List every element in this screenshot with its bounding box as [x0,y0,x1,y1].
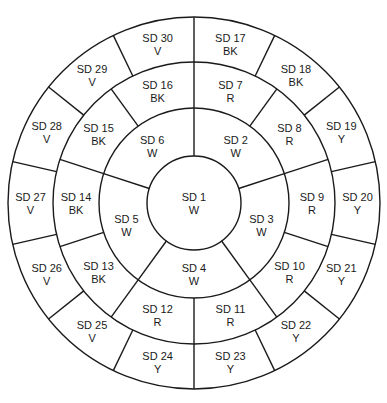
segment-code-label: BK [69,204,84,216]
segment-code-label: Y [354,204,362,216]
segment-id-label: SD 7 [218,79,242,91]
diagram-canvas: SD 1WSD 2WSD 3WSD 4WSD 5WSD 6WSD 7RSD 8R… [0,0,387,403]
segment-divider [222,241,250,280]
segment-dividers [13,17,376,389]
segment-divider [255,330,275,371]
segment-code-label: BK [91,135,106,147]
segment-code-label: W [147,147,158,159]
segment-sd-15: SD 15BK [83,122,114,147]
segment-code-label: W [231,147,242,159]
segment-id-label: SD 5 [114,213,138,225]
segment-code-label: R [226,92,234,104]
segment-id-label: SD 29 [77,63,108,75]
segment-divider [304,87,339,115]
segment-sd-19: SD 19Y [326,120,357,145]
segment-sd-28: SD 28V [31,120,62,145]
segment-code-label: R [308,204,316,216]
segment-id-label: SD 10 [274,260,305,272]
segment-code-label: W [256,226,267,238]
segment-sd-27: SD 27V [15,191,46,216]
segment-code-label: Y [154,363,162,375]
segment-id-label: SD 22 [281,319,312,331]
segment-sd-12: SD 12R [142,303,173,328]
segment-divider [331,234,375,244]
segment-code-label: R [226,316,234,328]
segment-id-label: SD 19 [326,120,357,132]
segment-sd-10: SD 10R [274,260,305,285]
segment-id-label: SD 11 [216,303,246,315]
segment-divider [60,159,104,173]
segment-sd-6: SD 6W [140,134,164,159]
segment-id-label: SD 4 [182,262,206,274]
segment-divider [113,35,133,76]
segment-sd-23: SD 23Y [215,350,246,375]
segment-divider [255,35,275,76]
segment-id-label: SD 24 [142,350,173,362]
segment-divider [331,162,375,172]
segment-sd-13: SD 13BK [83,260,114,285]
segment-sd-29: SD 29V [77,63,108,88]
segment-divider [250,89,277,126]
segment-id-label: SD 21 [326,262,357,274]
segment-code-label: R [154,316,162,328]
segment-code-label: W [121,226,132,238]
segment-id-label: SD 6 [140,134,164,146]
segment-divider [304,291,339,319]
segment-id-label: SD 20 [342,191,373,203]
segment-id-label: SD 26 [31,262,62,274]
segment-code-label: V [27,204,35,216]
segment-divider [111,280,138,317]
segment-id-label: SD 12 [142,303,173,315]
segment-sd-16: SD 16BK [142,79,173,104]
segment-sd-7: SD 7R [218,79,242,104]
segment-sd-8: SD 8R [277,122,301,147]
segment-sd-24: SD 24Y [142,350,173,375]
segment-id-label: SD 30 [142,32,173,44]
segment-code-label: BK [150,92,165,104]
segment-divider [13,162,57,172]
segment-sd-2: SD 2W [223,134,247,159]
segment-divider [284,159,328,173]
segment-divider [239,174,285,189]
segment-sd-14: SD 14BK [61,191,92,216]
segment-id-label: SD 1 [182,191,206,203]
segment-id-label: SD 13 [83,260,114,272]
segment-divider [104,174,150,189]
segment-code-label: W [189,204,200,216]
segment-divider [113,330,133,371]
segment-sd-17: SD 17BK [215,32,246,57]
segment-sd-18: SD 18BK [281,63,312,88]
segment-code-label: W [189,275,200,287]
segment-sd-30: SD 30V [142,32,173,57]
segment-id-label: SD 25 [77,319,108,331]
segment-code-label: V [43,133,51,145]
ring-circle-1 [147,156,241,250]
segment-divider [138,241,166,280]
segment-sd-3: SD 3W [249,213,273,238]
segment-sd-25: SD 25V [77,319,108,344]
segment-code-label: V [43,275,51,287]
segment-id-label: SD 23 [215,350,246,362]
segment-code-label: R [285,273,293,285]
segment-divider [250,280,277,317]
segment-sd-4: SD 4W [182,262,206,287]
segment-code-label: Y [338,133,346,145]
segment-id-label: SD 15 [83,122,114,134]
segment-code-label: Y [227,363,235,375]
segment-divider [49,291,84,319]
segment-code-label: BK [91,273,106,285]
segment-sd-20: SD 20Y [342,191,373,216]
segment-id-label: SD 9 [300,191,324,203]
segment-divider [60,232,104,246]
segment-id-label: SD 16 [142,79,173,91]
segment-divider [111,89,138,126]
segment-code-label: BK [289,76,304,88]
segment-sd-22: SD 22Y [281,319,312,344]
segment-id-label: SD 17 [215,32,246,44]
segment-code-label: R [285,135,293,147]
segment-sd-5: SD 5W [114,213,138,238]
segment-divider [49,87,84,115]
segment-id-label: SD 8 [277,122,301,134]
segment-sd-9: SD 9R [300,191,324,216]
segment-id-label: SD 14 [61,191,92,203]
